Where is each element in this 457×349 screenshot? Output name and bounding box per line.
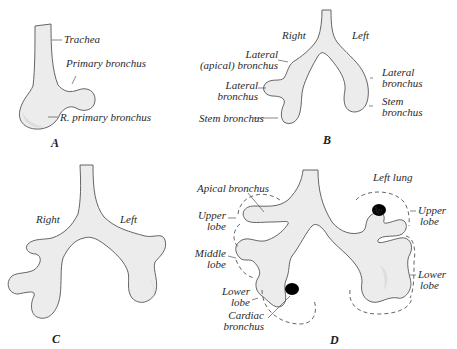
label-d-cardiac-2: bronchus <box>206 321 264 332</box>
panel-label-d: D <box>330 333 339 348</box>
label-d-lower-lobe-left-2: lobe <box>420 280 439 291</box>
label-d-ap: Ap <box>373 205 382 216</box>
label-c-left: Left <box>120 214 137 225</box>
panel-label-c: C <box>52 332 60 347</box>
label-d-apical-bronchus: Apical bronchus <box>197 183 269 194</box>
label-r-primary-bronchus: R. primary bronchus <box>60 112 151 123</box>
label-d-middle-lobe-2: lobe <box>186 259 226 270</box>
label-b-lateral-left-2: bronchus <box>382 78 423 89</box>
label-d-upper-lobe-right-2: lobe <box>186 221 226 232</box>
label-b-stem-right: Stem bronchus <box>199 113 264 124</box>
label-d-upper-lobe-left-2: lobe <box>420 216 439 227</box>
label-d-lower-lobe-right-2: lobe <box>210 297 250 308</box>
label-primary-bronchus: Primary bronchus <box>66 58 146 69</box>
label-b-lateral-right-2: bronchus <box>200 91 258 102</box>
label-c-right: Right <box>36 214 60 225</box>
label-b-left: Left <box>352 30 369 41</box>
label-d-left-lung: Left lung <box>373 172 412 183</box>
label-b-lateral-apical-2: (apical) bronchus <box>196 60 278 71</box>
label-b-stem-left-2: bronchus <box>382 107 423 118</box>
panel-label-a: A <box>51 136 59 151</box>
panel-label-b: B <box>323 133 331 148</box>
label-trachea: Trachea <box>64 34 100 45</box>
label-b-right: Right <box>282 30 306 41</box>
panel-c-drawing <box>8 165 165 318</box>
